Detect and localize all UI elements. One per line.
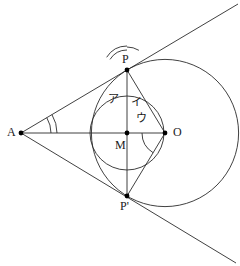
point-label-A: A [7,126,16,138]
angle-u-arc-1 [142,133,153,153]
angle-label-angle-a: ア [108,94,119,105]
segments-group [21,4,238,263]
tangent-lower [21,133,236,263]
radius-OPp [127,133,165,196]
angle-label-angle-i: イ [131,97,142,108]
point-dot-A [19,131,24,136]
tangent-upper [21,4,238,133]
point-dot-M [125,131,130,136]
point-label-M: M [115,139,126,151]
geometry-diagram-canvas [0,0,240,266]
point-label-O: O [173,126,182,138]
angle-i-arc-1 [127,47,139,50]
point-label-P: P [122,53,129,65]
point-label-Pp: P' [120,200,129,212]
geometry-figure: APMOP'アイウ [0,0,240,266]
point-dot-P [125,68,130,73]
angle-A-double-arc-1 [47,118,51,133]
point-dot-Pp [125,194,130,199]
angle-A-double-arc-2 [52,115,57,133]
angle-label-angle-u: ウ [136,113,147,124]
point-dot-O [163,131,168,136]
